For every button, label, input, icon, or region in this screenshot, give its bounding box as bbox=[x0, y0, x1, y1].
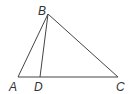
label-a: A bbox=[8, 80, 17, 94]
triangle-diagram: B A D C bbox=[0, 0, 135, 94]
label-b: B bbox=[38, 4, 46, 18]
label-c: C bbox=[116, 80, 125, 94]
segment-bc bbox=[48, 14, 118, 77]
label-d: D bbox=[34, 80, 43, 94]
